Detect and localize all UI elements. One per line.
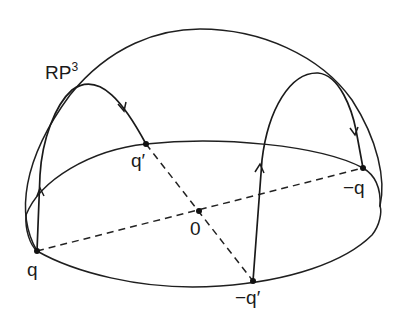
point-q-prime (143, 141, 149, 147)
space-label: RP3 (45, 60, 78, 83)
label-origin: 0 (190, 218, 201, 239)
equator-front-arc (37, 206, 381, 287)
arrow-up-icon (255, 164, 264, 173)
point-neg-q (360, 165, 366, 171)
point-q (34, 248, 40, 254)
rp3-hemisphere-diagram: RP3 q q′ 0 −q −q′ (0, 0, 403, 324)
label-neg-q: −q (343, 177, 365, 198)
loop-path-q-to-q-prime (37, 84, 146, 251)
equator-back-arc (26, 141, 380, 215)
equator-left-edge (26, 215, 37, 251)
point-origin (196, 208, 202, 214)
label-q: q (27, 259, 38, 280)
label-neg-q-prime: −q′ (235, 287, 261, 308)
hemisphere-dome-outline (26, 29, 382, 251)
point-neg-q-prime (250, 278, 256, 284)
label-q-prime: q′ (131, 150, 146, 171)
